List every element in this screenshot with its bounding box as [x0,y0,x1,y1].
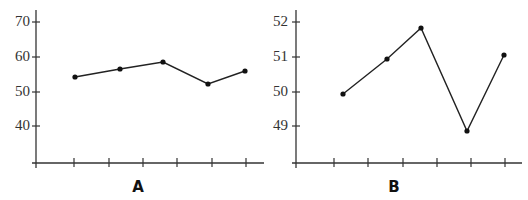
data-point [72,74,77,79]
chart-a: 70 60 50 40 A [0,0,264,200]
series-b-line [343,28,504,131]
y-tick-label: 49 [258,118,288,133]
chart-a-title: A [118,179,158,195]
chart-b-plot [264,0,528,200]
data-point [501,52,506,57]
data-point [464,128,469,133]
chart-b-title: B [374,179,414,195]
chart-b: 52 51 50 49 B [264,0,528,200]
y-tick-label: 51 [258,49,288,64]
data-point [160,59,165,64]
series-a-line [75,62,245,84]
y-tick-label: 52 [258,14,288,29]
chart-a-plot [0,0,264,200]
data-point [242,68,247,73]
y-tick-label: 50 [258,84,288,99]
y-tick-label: 50 [0,84,30,99]
y-tick-label: 40 [0,118,30,133]
data-point [205,81,210,86]
y-tick-label: 60 [0,49,30,64]
data-point [384,56,389,61]
data-point [340,91,345,96]
data-point [418,25,423,30]
data-point [117,66,122,71]
y-tick-label: 70 [0,14,30,29]
